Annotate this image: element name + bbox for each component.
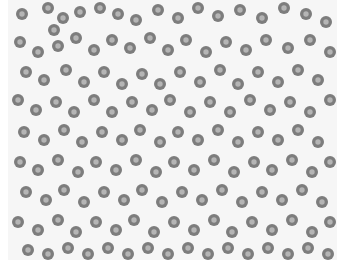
red-blood-cell bbox=[214, 64, 226, 76]
red-blood-cell bbox=[124, 42, 136, 54]
red-blood-cell bbox=[192, 2, 204, 14]
red-blood-cell bbox=[262, 242, 274, 254]
red-blood-cell bbox=[30, 104, 42, 116]
red-blood-cell bbox=[244, 94, 256, 106]
red-blood-cell bbox=[320, 16, 332, 28]
red-blood-cell bbox=[300, 8, 312, 20]
red-blood-cell bbox=[18, 126, 30, 138]
red-blood-cell bbox=[196, 194, 208, 206]
red-blood-cell bbox=[38, 134, 50, 146]
red-blood-cell bbox=[188, 164, 200, 176]
red-blood-cell bbox=[154, 136, 166, 148]
red-blood-cell bbox=[20, 186, 32, 198]
red-blood-cell bbox=[112, 8, 124, 20]
red-blood-cell bbox=[180, 34, 192, 46]
red-blood-cell bbox=[14, 156, 26, 168]
red-blood-cell bbox=[256, 12, 268, 24]
red-blood-cell bbox=[52, 154, 64, 166]
red-blood-cell bbox=[204, 96, 216, 108]
red-blood-cell bbox=[242, 248, 254, 260]
red-blood-cell bbox=[304, 34, 316, 46]
red-blood-cell bbox=[78, 76, 90, 88]
red-blood-cell bbox=[312, 74, 324, 86]
red-blood-cell bbox=[60, 64, 72, 76]
red-blood-cell bbox=[130, 154, 142, 166]
red-blood-cell bbox=[184, 106, 196, 118]
red-blood-cell bbox=[246, 216, 258, 228]
red-blood-cell bbox=[266, 224, 278, 236]
red-blood-cell bbox=[286, 214, 298, 226]
red-blood-cell bbox=[236, 196, 248, 208]
red-blood-cell bbox=[98, 186, 110, 198]
red-blood-cell bbox=[72, 166, 84, 178]
red-blood-cell bbox=[128, 214, 140, 226]
red-blood-cell bbox=[70, 32, 82, 44]
red-blood-cell bbox=[76, 136, 88, 148]
red-blood-cell bbox=[256, 186, 268, 198]
red-blood-cell bbox=[62, 242, 74, 254]
red-blood-cell bbox=[58, 184, 70, 196]
red-blood-cell bbox=[216, 184, 228, 196]
red-blood-cell bbox=[12, 216, 24, 228]
red-blood-cell bbox=[142, 242, 154, 254]
red-blood-cell bbox=[68, 106, 80, 118]
red-blood-cell bbox=[14, 36, 26, 48]
red-blood-cell bbox=[172, 12, 184, 24]
red-blood-cell bbox=[324, 216, 336, 228]
red-blood-cell bbox=[144, 32, 156, 44]
red-blood-cell bbox=[130, 14, 142, 26]
red-blood-cell bbox=[156, 196, 168, 208]
red-blood-cell bbox=[88, 94, 100, 106]
red-blood-cell bbox=[96, 126, 108, 138]
red-blood-cell bbox=[232, 78, 244, 90]
red-blood-cell bbox=[57, 12, 69, 24]
red-blood-cell bbox=[202, 248, 214, 260]
red-blood-cell bbox=[40, 194, 52, 206]
red-blood-cell bbox=[192, 134, 204, 146]
red-blood-cell bbox=[48, 24, 60, 36]
red-blood-cell bbox=[168, 216, 180, 228]
red-blood-cell bbox=[162, 248, 174, 260]
red-blood-cell bbox=[118, 194, 130, 206]
red-blood-cell bbox=[194, 76, 206, 88]
red-blood-cell bbox=[136, 68, 148, 80]
red-blood-cell bbox=[136, 184, 148, 196]
red-blood-cell bbox=[42, 2, 54, 14]
red-blood-cell bbox=[306, 166, 318, 178]
red-blood-cell bbox=[222, 242, 234, 254]
red-blood-cell bbox=[212, 124, 224, 136]
red-blood-cell bbox=[234, 4, 246, 16]
red-blood-cell bbox=[50, 96, 62, 108]
red-blood-cell bbox=[208, 154, 220, 166]
red-blood-cell bbox=[126, 96, 138, 108]
red-blood-cell bbox=[168, 156, 180, 168]
red-blood-cell bbox=[286, 154, 298, 166]
red-blood-cell bbox=[52, 214, 64, 226]
red-blood-cell bbox=[224, 106, 236, 118]
red-blood-cell bbox=[162, 44, 174, 56]
red-blood-cell bbox=[102, 242, 114, 254]
red-blood-cell bbox=[58, 124, 70, 136]
red-blood-cell bbox=[110, 224, 122, 236]
red-blood-cell bbox=[78, 196, 90, 208]
red-blood-cell bbox=[20, 66, 32, 78]
red-blood-cell bbox=[106, 106, 118, 118]
red-blood-cell bbox=[322, 248, 334, 260]
red-blood-cell bbox=[116, 134, 128, 146]
red-blood-cell bbox=[90, 156, 102, 168]
red-blood-cell bbox=[278, 2, 290, 14]
red-blood-cell bbox=[212, 10, 224, 22]
red-blood-cell bbox=[98, 66, 110, 78]
red-blood-cell bbox=[42, 248, 54, 260]
red-blood-cell bbox=[106, 34, 118, 46]
red-blood-cell bbox=[16, 8, 28, 20]
red-blood-cell bbox=[220, 36, 232, 48]
red-blood-cell bbox=[226, 226, 238, 238]
image-frame bbox=[0, 0, 337, 270]
red-blood-cell bbox=[188, 224, 200, 236]
red-blood-cell bbox=[248, 156, 260, 168]
red-blood-cell bbox=[324, 46, 336, 58]
red-blood-cell bbox=[296, 184, 308, 196]
red-blood-cell bbox=[272, 134, 284, 146]
red-blood-cell bbox=[94, 2, 106, 14]
